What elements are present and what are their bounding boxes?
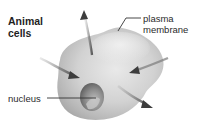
plasma-membrane-label-line-2: membrane (143, 24, 188, 35)
nucleus-shape (80, 83, 104, 111)
figure-title: Animal cells (8, 15, 43, 39)
nucleus-label: nucleus (8, 93, 41, 104)
animal-cell-diagram: Animal cells plasma membrane nucleus (0, 0, 200, 130)
figure-title-line-2: cells (8, 27, 43, 39)
plasma-membrane-label-line-1: plasma (143, 13, 188, 24)
plasma-membrane-label: plasma membrane (143, 13, 188, 35)
figure-title-line-1: Animal (8, 15, 43, 27)
